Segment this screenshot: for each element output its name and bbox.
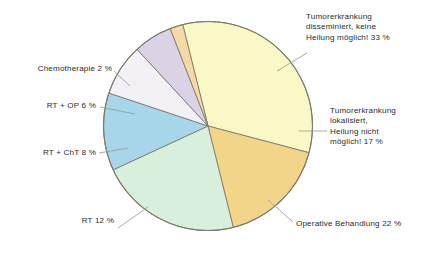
pie-label-rt-op: RT + OP 6 % xyxy=(12,101,96,111)
pie-label-chemotherapie: Chemotherapie 2 % xyxy=(8,64,112,74)
pie-label-disseminiert: Tumorerkrankung disseminiert, keine Heil… xyxy=(306,12,438,43)
pie-label-lokalisiert: Tumorerkrankung lokalisiert, Heilung nic… xyxy=(330,106,438,148)
pie-label-rt-cht: RT + ChT 8 % xyxy=(6,148,96,158)
pie-label-rt: RT 12 % xyxy=(36,216,114,226)
pie-label-operative-behandlung: Operative Behandlung 22 % xyxy=(296,219,438,229)
pie-chart-figure: Tumorerkrankung disseminiert, keine Heil… xyxy=(0,0,439,256)
pie-slices-group xyxy=(103,21,312,230)
leader-line-operative xyxy=(268,200,293,222)
leader-line-rt xyxy=(118,207,148,228)
